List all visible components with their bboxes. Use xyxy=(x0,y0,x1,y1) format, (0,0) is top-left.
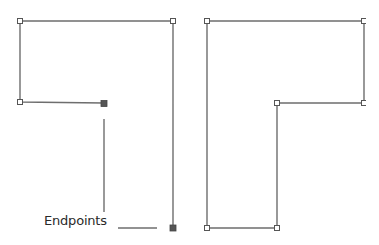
diagram-canvas xyxy=(0,0,379,245)
anchor-point-icon xyxy=(362,101,367,106)
endpoint-icon xyxy=(101,101,107,107)
endpoint-icon xyxy=(170,225,176,231)
anchor-point-icon xyxy=(18,19,23,24)
anchor-point-icon xyxy=(171,19,176,24)
anchor-point-icon xyxy=(205,19,210,24)
endpoints-label: Endpoints xyxy=(44,213,107,228)
left-open-path xyxy=(20,21,173,228)
anchor-point-icon xyxy=(18,100,23,105)
anchor-point-icon xyxy=(362,19,367,24)
right-closed-path xyxy=(207,21,364,228)
anchor-point-icon xyxy=(275,101,280,106)
anchor-point-icon xyxy=(205,226,210,231)
anchor-point-icon xyxy=(275,226,280,231)
